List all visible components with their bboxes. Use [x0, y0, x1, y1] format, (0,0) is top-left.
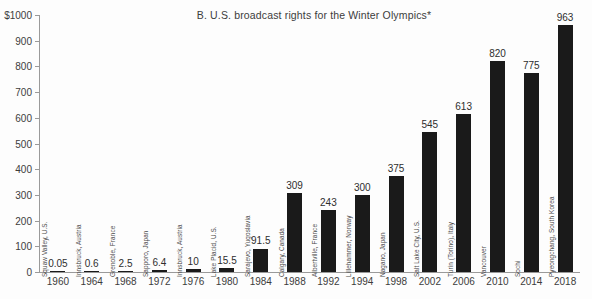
x-axis-tick-label: 2010: [486, 276, 508, 287]
x-axis-tick-label: 2002: [419, 276, 441, 287]
bar-city-label: Lillehammer, Norway: [345, 215, 352, 277]
bar: [456, 114, 471, 272]
y-axis-tick: [35, 195, 40, 196]
y-axis-tick: [35, 169, 40, 170]
bar: [389, 176, 404, 272]
y-axis-tick: [35, 144, 40, 145]
bar-value-label: 6.4: [152, 257, 166, 268]
bar: [50, 271, 65, 272]
bar-value-label: 375: [388, 163, 405, 174]
bar-city-label: Salt Lake City, U.S.: [413, 220, 420, 277]
bar: [490, 61, 505, 272]
y-axis-tick: [35, 272, 40, 273]
winter-olympics-broadcast-rights-chart: B. U.S. broadcast rights for the Winter …: [0, 0, 592, 299]
y-axis-tick-label: 500: [15, 138, 32, 149]
y-axis-tick-label: 600: [15, 112, 32, 123]
bar-value-label: 963: [557, 12, 574, 23]
bar-value-label: 775: [523, 60, 540, 71]
x-axis-line: [39, 272, 580, 273]
x-axis-tick-label: 2014: [520, 276, 542, 287]
y-axis-tick-label: $1000: [4, 10, 32, 21]
bar-value-label: 0.05: [48, 258, 67, 269]
bar-value-label: 10: [188, 256, 199, 267]
bar-city-label: Nagano, Japan: [379, 232, 386, 277]
bar: [219, 268, 234, 272]
bar-city-label: Sapporo, Japan: [142, 230, 149, 277]
x-axis-tick-label: 1992: [317, 276, 339, 287]
y-axis-tick-label: 100: [15, 241, 32, 252]
y-axis-tick: [35, 41, 40, 42]
y-axis-tick-label: 900: [15, 35, 32, 46]
bar-value-label: 309: [286, 180, 303, 191]
x-axis-tick-label: 1994: [351, 276, 373, 287]
x-axis-tick-label: 1968: [114, 276, 136, 287]
bar-city-label: Sarajevo, Yugoslavia: [244, 215, 251, 277]
bar-value-label: 545: [422, 119, 439, 130]
y-axis-tick: [35, 246, 40, 247]
bar-city-label: Lake Placid, U.S.: [210, 226, 217, 277]
y-axis-tick: [35, 15, 40, 16]
bar-city-label: Innsbruck, Austria: [176, 224, 183, 277]
y-axis-tick-label: 400: [15, 164, 32, 175]
x-axis-tick-label: 1960: [47, 276, 69, 287]
bar-value-label: 820: [489, 48, 506, 59]
bar-city-label: Squaw Valley, U.S.: [41, 221, 48, 277]
y-axis-tick: [35, 66, 40, 67]
bar: [287, 193, 302, 272]
x-axis-tick-label: 1972: [148, 276, 170, 287]
bar-value-label: 15.5: [217, 255, 236, 266]
bar-city-label: Pyeongchang, South Korea: [548, 196, 555, 277]
bar: [152, 270, 167, 272]
bar-city-label: Innsbruck, Austria: [75, 224, 82, 277]
bar-city-label: Albertville, France: [311, 224, 318, 277]
bar-value-label: 243: [320, 197, 337, 208]
bar: [253, 249, 268, 273]
bar: [558, 25, 573, 272]
x-axis-tick-label: 1988: [283, 276, 305, 287]
y-axis-labels: 0100200300400500600700800900$1000: [0, 15, 39, 272]
y-axis-tick-label: 0: [26, 267, 32, 278]
y-axis-tick: [35, 92, 40, 93]
bar-value-label: 0.6: [85, 258, 99, 269]
bar-value-label: 91.5: [251, 235, 270, 246]
bar-value-label: 2.5: [119, 258, 133, 269]
bar-city-label: Vancouver: [480, 246, 487, 277]
y-axis-tick-label: 300: [15, 189, 32, 200]
y-axis-tick: [35, 118, 40, 119]
bar: [321, 210, 336, 272]
x-axis-tick-label: 1980: [216, 276, 238, 287]
x-axis-tick-label: 1976: [182, 276, 204, 287]
x-axis-tick-label: 1998: [385, 276, 407, 287]
bar: [186, 269, 201, 272]
x-axis-tick-label: 2018: [554, 276, 576, 287]
bar-city-label: Sochi: [514, 261, 521, 278]
y-axis-tick: [35, 221, 40, 222]
y-axis-tick-label: 800: [15, 61, 32, 72]
x-axis-labels: 1960196419681972197619801984198819921994…: [39, 276, 580, 292]
x-axis-tick-label: 1964: [81, 276, 103, 287]
bar-city-label: Calgary, Canada: [278, 228, 285, 277]
bar: [355, 195, 370, 272]
bar-value-label: 300: [354, 182, 371, 193]
bar-city-label: Turin (Torino), Italy: [447, 222, 454, 277]
plot-area: 0.05Squaw Valley, U.S.0.6Innsbruck, Aust…: [39, 15, 580, 272]
y-axis-tick-label: 200: [15, 215, 32, 226]
bar: [524, 73, 539, 272]
bar: [84, 271, 99, 272]
bar-city-label: Grenoble, France: [109, 226, 116, 277]
x-axis-tick-label: 2006: [453, 276, 475, 287]
y-axis-tick-label: 700: [15, 87, 32, 98]
x-axis-tick-label: 1984: [250, 276, 272, 287]
bar: [118, 271, 133, 272]
bar-value-label: 613: [455, 101, 472, 112]
bar: [422, 132, 437, 272]
